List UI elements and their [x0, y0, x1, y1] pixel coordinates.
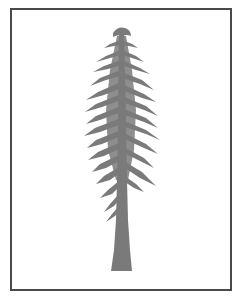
tree-crown-top: [113, 28, 131, 37]
tree-shape: [84, 28, 160, 271]
tree-silhouette: [0, 0, 242, 297]
